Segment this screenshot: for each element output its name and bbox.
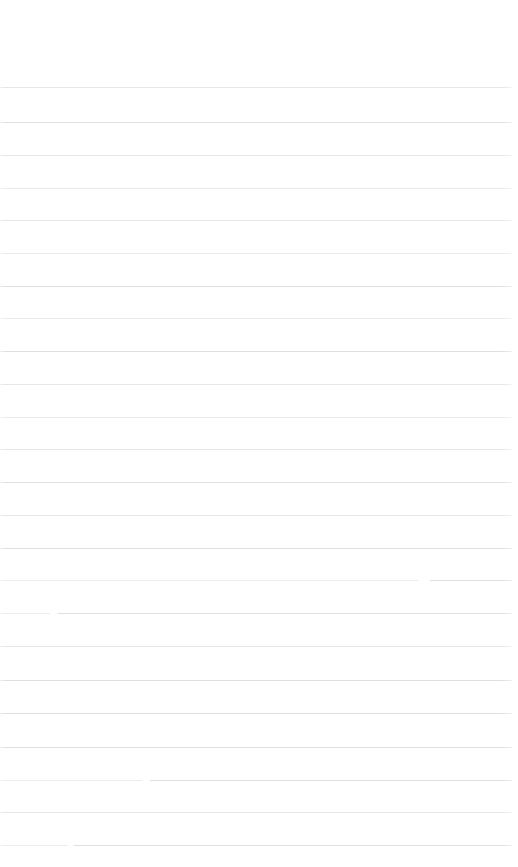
rule-segment bbox=[0, 580, 418, 581]
rule-segment bbox=[0, 613, 50, 614]
rule-line bbox=[0, 580, 512, 581]
rule-line bbox=[0, 482, 512, 483]
text-line[interactable] bbox=[0, 419, 518, 451]
text-line[interactable] bbox=[0, 650, 518, 682]
rule-line bbox=[0, 351, 512, 352]
text-line[interactable] bbox=[0, 125, 518, 157]
rule-line bbox=[0, 646, 512, 647]
rule-segment bbox=[74, 845, 512, 846]
rule-segment bbox=[58, 613, 512, 614]
text-line[interactable] bbox=[0, 321, 518, 353]
rule-line bbox=[0, 286, 512, 287]
text-line[interactable] bbox=[0, 190, 518, 222]
rule-line bbox=[0, 713, 512, 714]
text-line[interactable] bbox=[0, 518, 518, 550]
rule-line bbox=[0, 747, 512, 748]
text-line[interactable] bbox=[0, 782, 518, 814]
text-line[interactable] bbox=[0, 485, 518, 517]
text-line[interactable] bbox=[0, 815, 518, 847]
rule-line bbox=[0, 449, 512, 450]
rule-segment bbox=[430, 580, 512, 581]
rule-line bbox=[0, 780, 512, 781]
text-line[interactable] bbox=[0, 616, 518, 648]
rule-line bbox=[0, 253, 512, 254]
text-line[interactable] bbox=[0, 288, 518, 320]
rule-line bbox=[0, 220, 512, 221]
rule-line bbox=[0, 155, 512, 156]
ruled-page bbox=[0, 0, 518, 867]
rule-line bbox=[0, 548, 512, 549]
rule-segment bbox=[0, 845, 68, 846]
rule-line bbox=[0, 613, 512, 614]
rule-line bbox=[0, 384, 512, 385]
text-line[interactable] bbox=[0, 223, 518, 255]
rule-line bbox=[0, 812, 512, 813]
text-line[interactable] bbox=[0, 158, 518, 190]
text-line[interactable] bbox=[0, 550, 518, 582]
text-line[interactable] bbox=[0, 583, 518, 615]
text-line[interactable] bbox=[0, 683, 518, 715]
text-line[interactable] bbox=[0, 452, 518, 484]
rule-line bbox=[0, 318, 512, 319]
text-line[interactable] bbox=[0, 354, 518, 386]
rule-segment bbox=[150, 780, 512, 781]
text-line[interactable] bbox=[0, 57, 518, 89]
rule-segment bbox=[0, 780, 142, 781]
rule-line bbox=[0, 417, 512, 418]
rule-line bbox=[0, 87, 512, 88]
rule-line bbox=[0, 845, 512, 846]
rule-line bbox=[0, 188, 512, 189]
ruled-writing-area[interactable] bbox=[0, 0, 518, 867]
text-line[interactable] bbox=[0, 387, 518, 419]
rule-line bbox=[0, 680, 512, 681]
rule-line bbox=[0, 122, 512, 123]
text-line[interactable] bbox=[0, 750, 518, 782]
rule-line bbox=[0, 515, 512, 516]
text-line[interactable] bbox=[0, 92, 518, 124]
text-line[interactable] bbox=[0, 717, 518, 749]
text-line[interactable] bbox=[0, 256, 518, 288]
